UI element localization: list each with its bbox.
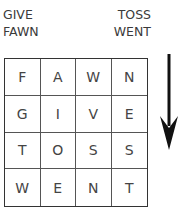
clue-words-right: TOSS WENT <box>113 6 151 40</box>
grid-cell: E <box>41 169 77 206</box>
grid-cell: F <box>5 59 41 96</box>
letter-grid: F A W N G I V E T O S S W E N T <box>4 58 148 207</box>
arrow-down-icon <box>159 54 179 150</box>
clue-word: WENT <box>113 23 151 40</box>
grid-cell: T <box>5 133 41 170</box>
grid-cell: O <box>41 133 77 170</box>
grid-cell: G <box>5 96 41 133</box>
grid-cell: T <box>112 169 148 206</box>
grid-cell: S <box>112 133 148 170</box>
grid-cell: S <box>76 133 112 170</box>
grid-cell: N <box>76 169 112 206</box>
grid-cell: V <box>76 96 112 133</box>
clue-word: TOSS <box>113 6 151 23</box>
grid-cell: A <box>41 59 77 96</box>
grid-cell: W <box>76 59 112 96</box>
clue-word: FAWN <box>3 23 39 40</box>
clue-word: GIVE <box>3 6 39 23</box>
clue-words-left: GIVE FAWN <box>3 6 39 40</box>
grid-cell: I <box>41 96 77 133</box>
grid-cell: W <box>5 169 41 206</box>
grid-cell: E <box>112 96 148 133</box>
grid-cell: N <box>112 59 148 96</box>
